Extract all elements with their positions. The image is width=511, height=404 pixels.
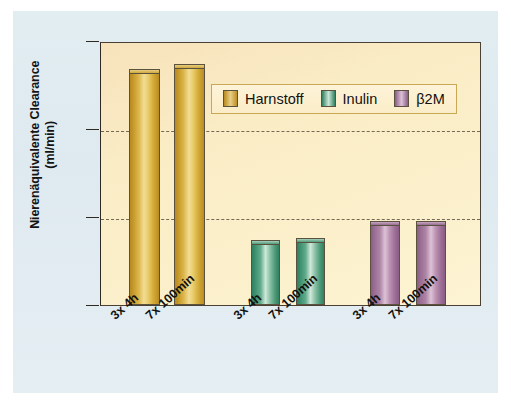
bar-top-cap bbox=[296, 238, 325, 243]
bar-top-cap bbox=[251, 240, 280, 245]
legend-label-harnstoff: Harnstoff bbox=[245, 91, 304, 107]
legend-item-b2m[interactable]: β2M bbox=[394, 90, 444, 107]
y-tick-mark-5 bbox=[86, 217, 99, 218]
y-tick-mark-0 bbox=[86, 305, 99, 306]
y-axis-label-line2: (ml/min) bbox=[43, 20, 58, 270]
bar-top-cap bbox=[174, 64, 205, 69]
bar-top-cap bbox=[416, 221, 446, 226]
y-tick-mark-10 bbox=[86, 129, 99, 130]
legend-item-inulin[interactable]: Inulin bbox=[321, 90, 378, 107]
legend-label-b2m: β2M bbox=[416, 91, 444, 107]
legend-swatch-icon bbox=[321, 90, 336, 107]
legend-swatch-icon bbox=[223, 90, 238, 107]
y-axis-label-line1: Nierenäquivalente Clearance bbox=[28, 20, 43, 270]
y-tick-mark-15 bbox=[86, 41, 99, 42]
y-axis-label: Nierenäquivalente Clearance (ml/min) bbox=[28, 20, 58, 270]
bar-top-cap bbox=[370, 221, 400, 226]
bar-chart-figure: Nierenäquivalente Clearance (ml/min) 15 … bbox=[0, 0, 511, 404]
chart-legend: Harnstoff Inulin β2M bbox=[211, 84, 457, 114]
bar-top-cap bbox=[129, 69, 160, 74]
legend-item-harnstoff[interactable]: Harnstoff bbox=[223, 90, 304, 107]
legend-label-inulin: Inulin bbox=[343, 91, 378, 107]
legend-swatch-icon bbox=[394, 90, 409, 107]
